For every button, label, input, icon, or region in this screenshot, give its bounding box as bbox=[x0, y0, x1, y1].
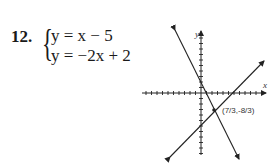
x-axis: x bbox=[142, 80, 267, 95]
y-axis-label: y bbox=[194, 29, 199, 39]
intersection-label: (7/3,-8/3) bbox=[222, 106, 255, 115]
intersection-point bbox=[212, 108, 216, 112]
x-axis-label: x bbox=[262, 80, 267, 90]
graph: x y bbox=[0, 0, 274, 168]
